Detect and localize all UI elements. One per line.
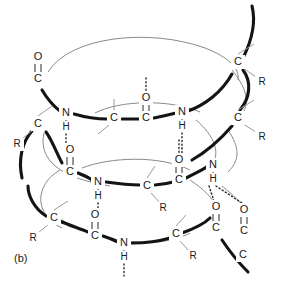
atom-label-c: C [66,165,74,177]
atom-label-c: C [110,111,118,123]
atom-label-c: C [172,227,180,239]
atom-label-c: C [50,211,58,223]
atom-label-h: H [62,121,69,132]
atom-label-h: H [209,173,216,184]
panel-label: (b) [14,252,27,264]
atom-label-n: N [94,175,102,187]
atom-label-c: C [175,173,183,185]
atom-label-n: N [120,236,128,248]
atom-label-c: C [240,224,248,236]
atom-label-r: R [159,202,166,213]
glyph-masks [10,50,269,263]
atom-label-r: R [258,131,265,142]
atom-label-r: R [189,250,196,261]
atom-label-o: O [66,143,75,155]
atom-label-r: R [29,232,36,243]
atom-label-c: C [239,248,247,260]
atom-label-o: O [142,91,151,103]
alpha-helix-figure: O C N H C O C N H C R C R C R O C N H C … [0,0,283,286]
atom-label-o: O [212,200,221,212]
atom-label-r: R [258,76,265,87]
atom-label-n: N [209,158,217,170]
atom-label-o: O [34,50,43,62]
atom-label-n: N [62,106,70,118]
atom-label-h: H [120,251,127,262]
atom-label-c: C [91,229,99,241]
helix-drawing: O C N H C O C N H C R C R C R O C N H C … [0,0,283,286]
atom-label-c: C [143,179,151,191]
atom-label-h: H [94,190,101,201]
atom-label-o: O [91,208,100,220]
atom-label-c: C [142,111,150,123]
atom-label-o: O [175,153,184,165]
atom-label-o: O [240,203,249,215]
atom-label-c: C [34,117,42,129]
atom-label-h: H [178,120,185,131]
atom-label-c: C [234,111,242,123]
atom-label-c: C [212,221,220,233]
atom-label-c: C [234,55,242,67]
atom-label-r: R [13,138,20,149]
atom-label-c: C [34,72,42,84]
atom-label-n: N [178,105,186,117]
